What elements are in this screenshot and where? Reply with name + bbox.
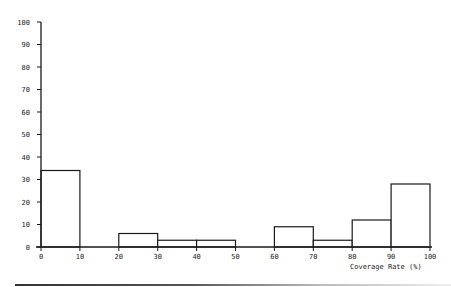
x-tick-label: 60 (270, 253, 278, 261)
histogram-bar (352, 220, 391, 247)
x-tick-label: 80 (348, 253, 356, 261)
x-axis-ticks: 0102030405060708090100 (39, 247, 436, 261)
x-tick-label: 0 (39, 253, 43, 261)
y-tick-label: 40 (22, 154, 30, 162)
y-tick-label: 0 (26, 244, 30, 252)
histogram-bar (158, 240, 197, 247)
histogram-bars (41, 171, 430, 248)
histogram-bar (274, 227, 313, 247)
x-tick-label: 10 (76, 253, 84, 261)
bottom-divider (15, 284, 451, 286)
y-tick-label: 80 (22, 64, 30, 72)
histogram-bar (41, 171, 80, 248)
y-axis-ticks: 0102030405060708090100 (17, 19, 41, 252)
x-tick-label: 30 (153, 253, 161, 261)
x-tick-label: 40 (192, 253, 200, 261)
histogram-bar (119, 234, 158, 248)
histogram-bar (313, 240, 352, 247)
y-tick-label: 70 (22, 86, 30, 94)
histogram-bar (197, 240, 236, 247)
y-tick-label: 90 (22, 41, 30, 49)
x-tick-label: 50 (231, 253, 239, 261)
y-tick-label: 100 (17, 19, 30, 27)
x-tick-label: 70 (309, 253, 317, 261)
y-tick-label: 20 (22, 199, 30, 207)
x-tick-label: 20 (115, 253, 123, 261)
x-tick-label: 100 (424, 253, 437, 261)
x-tick-label: 90 (387, 253, 395, 261)
y-tick-label: 10 (22, 221, 30, 229)
y-tick-label: 50 (22, 131, 30, 139)
y-tick-label: 60 (22, 109, 30, 117)
histogram-bar (391, 184, 430, 247)
histogram-chart: 0102030405060708090100 01020304050607080… (0, 0, 451, 287)
y-tick-label: 30 (22, 176, 30, 184)
x-axis-title: Coverage Rate (%) (350, 263, 422, 271)
